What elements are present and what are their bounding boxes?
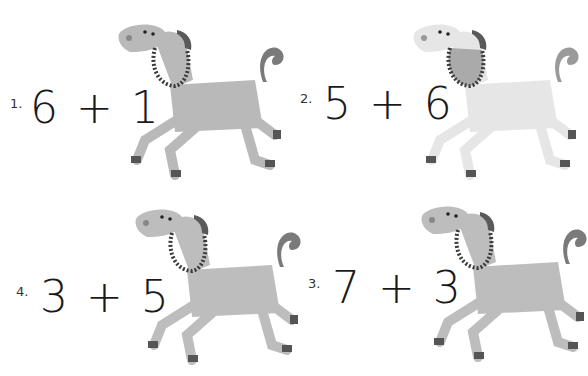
horse-icon xyxy=(132,195,312,370)
problem-number: 1. xyxy=(10,96,22,111)
problem-number: 4. xyxy=(16,284,28,299)
horse-icon xyxy=(418,192,588,367)
horse-icon xyxy=(410,10,588,185)
problem-number: 3. xyxy=(308,276,320,291)
problem-number: 2. xyxy=(300,91,312,106)
horse-icon xyxy=(115,10,295,185)
